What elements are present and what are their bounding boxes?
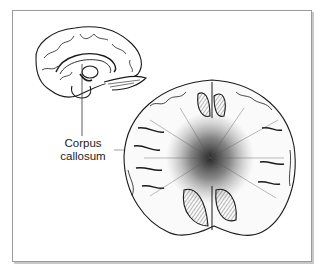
- label-line-2: callosum: [52, 150, 114, 163]
- horizontal-section: [124, 80, 295, 235]
- brain-illustration: [0, 0, 324, 272]
- label-corpus-callosum: Corpus callosum: [52, 137, 114, 163]
- sagittal-brain: [36, 27, 146, 98]
- label-line-1: Corpus: [52, 137, 114, 150]
